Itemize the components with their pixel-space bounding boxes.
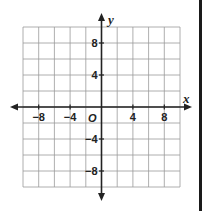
x-tick-label: −8 [32,111,45,123]
x-tick-label: 8 [161,111,167,123]
y-tick-label: −8 [85,165,98,177]
y-axis-down-arrow-icon [98,193,105,201]
y-tick-label: −4 [85,133,98,145]
coordinate-plane: −8−44884−4−8 y x O [0,0,203,211]
y-axis-up-arrow-icon [98,13,105,21]
x-tick-label: −4 [64,111,77,123]
x-tick-label: 4 [130,111,137,123]
y-axis-label: y [106,12,114,27]
x-axis-label: x [182,91,190,106]
x-axis-left-arrow-icon [10,104,18,111]
y-tick-label: 4 [91,69,98,81]
y-tick-label: 8 [91,37,97,49]
right-border-bar [199,0,202,211]
origin-label: O [88,112,97,124]
